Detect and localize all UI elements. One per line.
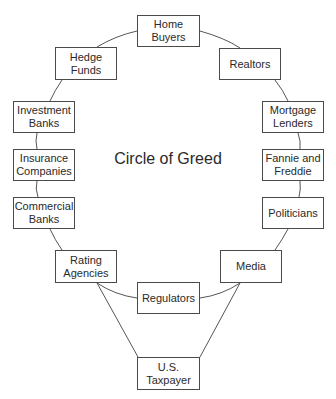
node-us-taxpayer: U.S. Taxpayer (137, 357, 200, 390)
edge-realtors-mortgage-lenders (275, 80, 288, 101)
node-rating-agencies: Rating Agencies (55, 250, 117, 283)
edge-insurance-investment (36, 133, 37, 149)
node-investment-banks: Investment Banks (13, 101, 75, 133)
edge-media-regulators (200, 283, 240, 298)
edge-commercial-insurance (36, 181, 38, 197)
node-hedge-funds: Hedge Funds (55, 47, 117, 80)
edge-mortgage-lenders-fannie (298, 133, 300, 149)
node-media: Media (220, 250, 282, 283)
edge-media-taxpayer (200, 283, 240, 357)
node-mortgage-lenders: Mortgage Lenders (262, 101, 324, 133)
edge-fannie-politicians (299, 181, 300, 197)
edge-home-buyers-realtors (200, 31, 240, 48)
node-insurance-companies: Insurance Companies (13, 149, 75, 181)
node-fannie-and-freddie: Fannie and Freddie (262, 149, 324, 181)
node-realtors: Realtors (219, 48, 281, 80)
edge-investment-hedge (50, 80, 62, 101)
edge-politicians-media (275, 229, 288, 250)
node-commercial-banks: Commercial Banks (13, 197, 75, 229)
node-home-buyers: Home Buyers (137, 15, 200, 47)
edge-hedge-home-buyers (97, 31, 137, 47)
edge-rating-commercial (50, 229, 62, 250)
node-regulators: Regulators (137, 282, 200, 314)
node-politicians: Politicians (262, 197, 324, 229)
edge-regulators-rating-agencies (97, 283, 137, 298)
edge-rating-taxpayer (97, 283, 138, 357)
